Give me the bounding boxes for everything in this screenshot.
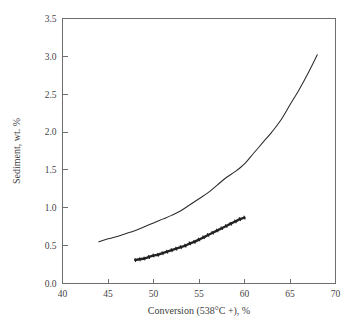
y-tick-label: 3.5 xyxy=(45,14,57,24)
x-axis-title: Conversion (538°C +), % xyxy=(148,305,250,317)
x-tick-label: 70 xyxy=(331,289,341,299)
data-point-marker xyxy=(140,257,141,261)
x-tick-label: 45 xyxy=(103,289,113,299)
data-point-marker xyxy=(135,258,136,262)
x-tick-label: 60 xyxy=(240,289,250,299)
chart-figure: 40455055606570 0.00.51.01.52.02.53.03.5 … xyxy=(0,0,359,329)
x-tick-label: 40 xyxy=(58,289,68,299)
y-tick-label: 1.5 xyxy=(45,165,57,175)
y-tick-label: 3.0 xyxy=(45,52,57,62)
x-tick-label: 50 xyxy=(149,289,159,299)
x-tick-label: 55 xyxy=(194,289,204,299)
y-tick-label: 0.5 xyxy=(45,241,57,251)
y-tick-label: 0.0 xyxy=(45,279,57,289)
y-tick-label: 2.0 xyxy=(45,127,57,137)
y-tick-label: 1.0 xyxy=(45,203,57,213)
x-tick-label: 65 xyxy=(285,289,295,299)
y-tick-label: 2.5 xyxy=(45,90,57,100)
chart-plot-area: 40455055606570 0.00.51.01.52.02.53.03.5 … xyxy=(0,0,359,329)
y-axis-title: Sediment, wt. % xyxy=(11,118,22,184)
